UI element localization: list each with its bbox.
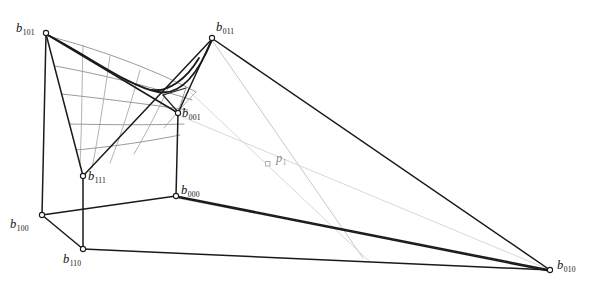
- edge-b011-b010: [213, 39, 550, 270]
- label-b011: b011: [216, 21, 234, 34]
- edge-b000-b110-lower: [176, 197, 549, 271]
- label-b100-base: b: [10, 217, 16, 231]
- edge-corner-patch-b001: [163, 95, 178, 112]
- edge-b001-b000: [176, 114, 178, 196]
- label-p1-base: p: [276, 151, 282, 165]
- label-b101: b101: [16, 22, 34, 35]
- grid-cross-1: [80, 45, 83, 166]
- label-b110-sub: 110: [70, 259, 82, 268]
- label-b100: b100: [10, 218, 28, 231]
- grid-ruling-1: [48, 36, 196, 92]
- label-b110: b110: [63, 253, 81, 266]
- edge-b101-b100: [42, 34, 46, 215]
- light-ray-group: [176, 40, 550, 270]
- vertex-marker-b101[interactable]: [43, 30, 48, 35]
- label-b111-sub: 111: [95, 176, 106, 185]
- vertex-marker-b010[interactable]: [547, 267, 552, 272]
- label-b101-sub: 101: [23, 28, 35, 37]
- ray-b011-to-lower-right: [212, 40, 363, 258]
- edge-b011-b001: [178, 39, 212, 113]
- label-b011-sub: 011: [223, 27, 235, 36]
- label-p1-sub: 1: [283, 158, 287, 167]
- label-b001-sub: 001: [189, 113, 201, 122]
- vertex-marker-b001[interactable]: [175, 110, 180, 115]
- vertex-marker-b011[interactable]: [209, 35, 214, 40]
- label-b001-base: b: [182, 106, 188, 120]
- point-marker-p1[interactable]: [266, 162, 271, 167]
- label-b010-sub: 010: [564, 265, 576, 274]
- figure-canvas: [0, 0, 589, 287]
- label-b111: b111: [88, 170, 106, 183]
- ray-b001-to-b010: [178, 115, 550, 270]
- label-b111-base: b: [88, 169, 94, 183]
- label-b000-sub: 000: [188, 190, 200, 199]
- label-b010-base: b: [557, 258, 563, 272]
- edge-b100-b110: [42, 215, 83, 249]
- label-b011-base: b: [216, 20, 222, 34]
- geometry-figure: b101 b011 b001 b111 b000 b100 b110 b010 …: [0, 0, 589, 287]
- edge-b000-b010: [176, 196, 550, 270]
- edge-b100-b000: [42, 196, 176, 215]
- vertex-marker-b000[interactable]: [173, 193, 178, 198]
- label-b100-sub: 100: [17, 224, 29, 233]
- label-b001: b001: [182, 107, 200, 120]
- vertex-marker-group: [39, 30, 552, 272]
- edge-b101-b111: [46, 34, 83, 176]
- vertex-marker-b100[interactable]: [39, 212, 44, 217]
- label-p1: p1: [276, 152, 286, 165]
- label-b000: b000: [181, 184, 199, 197]
- label-b101-base: b: [16, 21, 22, 35]
- label-b110-base: b: [63, 252, 69, 266]
- ray-saddle-to-lower-right: [190, 92, 370, 262]
- surface-grid-group: [48, 36, 196, 168]
- label-b000-base: b: [181, 183, 187, 197]
- vertex-marker-b110[interactable]: [80, 246, 85, 251]
- vertex-marker-b111[interactable]: [80, 173, 85, 178]
- edge-b110-b010: [83, 249, 550, 270]
- control-net-group: [42, 34, 550, 271]
- label-b010: b010: [557, 259, 575, 272]
- grid-ruling-5: [76, 135, 180, 150]
